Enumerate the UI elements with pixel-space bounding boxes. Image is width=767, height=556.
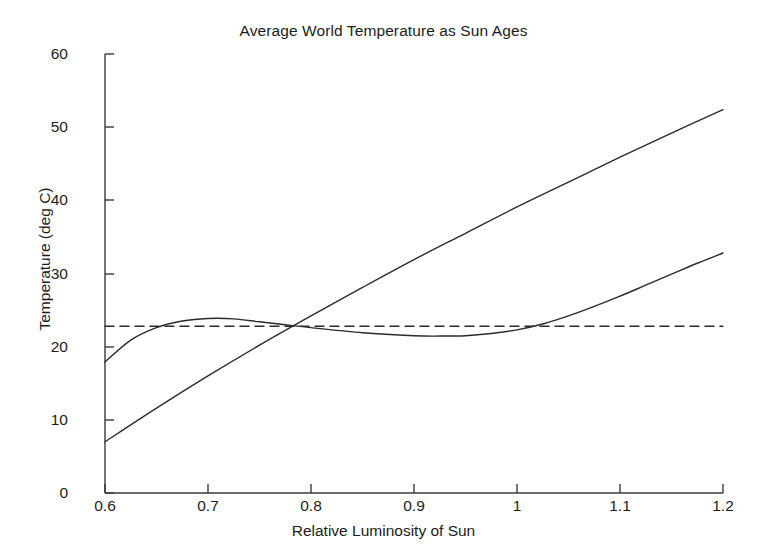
x-axis-ticks bbox=[105, 484, 723, 493]
figure-canvas: Average World Temperature as Sun Ages Te… bbox=[0, 0, 767, 556]
y-axis-ticks bbox=[105, 54, 114, 493]
series-line-0 bbox=[105, 110, 723, 442]
data-series-layer bbox=[105, 110, 723, 442]
series-line-1 bbox=[105, 253, 723, 362]
plot-area bbox=[0, 0, 767, 556]
